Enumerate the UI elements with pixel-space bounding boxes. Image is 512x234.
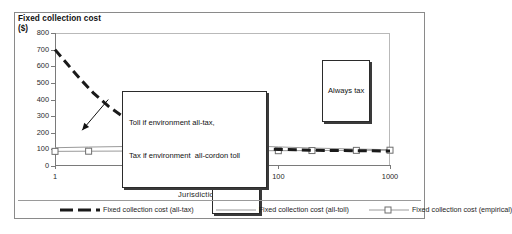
callout-toll-tax-regime: Toll if environment all-tax, Tax if envi… [122,91,267,188]
legend-label-all-toll: Fixed collection cost (all-toll) [259,205,349,214]
x-tick-mark-1000 [390,165,391,169]
legend-item-all-toll: Fixed collection cost (all-toll) [216,205,349,214]
legend-label-all-tax: Fixed collection cost (all-tax) [103,205,194,214]
y-axis-title-line1: Fixed collection cost [18,14,101,24]
y-tick-label: 200 [37,128,49,137]
y-tick-label: 800 [37,28,49,37]
legend-item-empirical: Fixed collection cost (empirical) [369,205,512,214]
y-tick-label: 600 [37,61,49,70]
callout-toll-tax-line2: Tax if environment all-cordon toll [129,150,261,161]
legend-swatch-all-toll [216,206,256,214]
y-tick-label: 0 [45,161,49,170]
y-axis-title-line2: ($) [18,24,28,34]
y-tick-label: 300 [37,111,49,120]
x-tick-label-100: 100 [272,172,284,181]
legend-label-empirical: Fixed collection cost (empirical) [412,205,512,214]
callout-always-tax: Always tax [322,60,370,122]
legend-swatch-empirical [369,206,409,214]
y-tick-label: 400 [37,95,49,104]
callout-always-tax-text: Always tax [328,85,364,96]
x-tick-label-1: 1 [53,172,57,181]
legend-swatch-all-tax [60,206,100,214]
y-tick-label: 500 [37,78,49,87]
chart-legend: Fixed collection cost (all-tax) Fixed co… [18,200,421,216]
y-tick-label: 700 [37,45,49,54]
legend-item-all-tax: Fixed collection cost (all-tax) [60,205,194,214]
y-tick-label: 100 [37,144,49,153]
callout-toll-tax-line1: Toll if environment all-tax, [129,117,261,128]
x-tick-label-1000: 1000 [382,172,398,181]
